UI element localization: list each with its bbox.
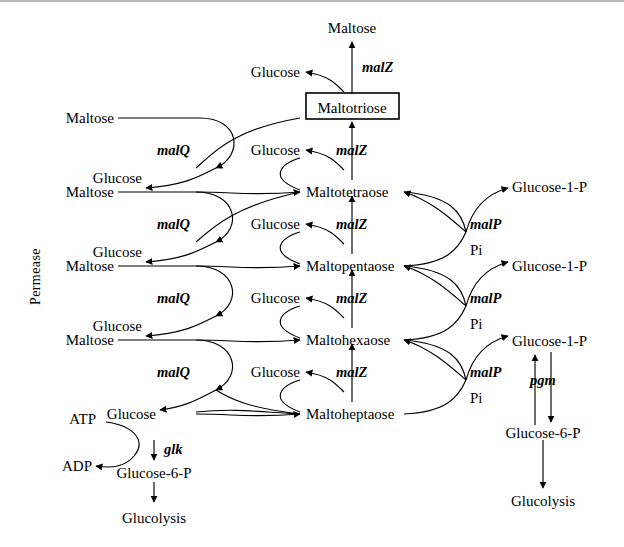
node-glucose-1-p-3: Glucose-1-P — [512, 333, 587, 349]
node-glucolysis-left: Glucolysis — [122, 510, 186, 526]
node-glucose-left-3: Glucose — [93, 318, 142, 334]
enzyme-malz-top: malZ — [362, 59, 394, 75]
enzyme-malp-2: malP — [470, 290, 502, 306]
node-glucose-center-1: Glucose — [251, 142, 300, 158]
enzyme-malz-1: malZ — [336, 142, 368, 158]
node-maltose-entry-1: Maltose — [66, 110, 115, 126]
enzyme-malq-2: malQ — [157, 216, 191, 232]
node-glucose-center-3: Glucose — [251, 290, 300, 306]
arrow-malq-to-maltoheptaose — [196, 414, 300, 416]
node-maltose-entry-4: Maltose — [66, 332, 115, 348]
curve-glucose-center-2 — [280, 232, 300, 264]
node-maltotriose: Maltotriose — [317, 100, 386, 116]
node-glucose-1-p-1: Glucose-1-P — [512, 179, 587, 195]
curve-chain5-to-malp — [404, 266, 466, 306]
node-glucose-center-4: Glucose — [251, 364, 300, 380]
node-maltose-entry-2: Maltose — [66, 184, 115, 200]
arrow-malq-glucose-out-4 — [160, 390, 216, 410]
node-glucose-left-4: Glucose — [107, 406, 156, 422]
enzyme-glk: glk — [163, 441, 183, 457]
enzyme-malp-1: malP — [470, 216, 502, 232]
node-glucose-top: Glucose — [251, 64, 300, 80]
enzyme-pgm: pgm — [528, 372, 556, 388]
node-glucose-left-2: Glucose — [93, 244, 142, 260]
node-maltoheptaose: Maltoheptaose — [306, 406, 395, 422]
node-glucose-6-p-left: Glucose-6-P — [117, 465, 192, 481]
node-glucose-center-2: Glucose — [251, 216, 300, 232]
node-glucose-1-p-2: Glucose-1-P — [512, 258, 587, 274]
node-atp: ATP — [69, 411, 96, 427]
node-glucolysis-right: Glucolysis — [511, 493, 575, 509]
curve-glucose-center-1 — [280, 158, 300, 190]
curve-pi-feed-1 — [404, 232, 466, 266]
curve-pi-feed-3 — [404, 380, 466, 414]
arrow-malq-glucose-out-3 — [146, 316, 216, 336]
node-maltotetraose: Maltotetraose — [306, 184, 389, 200]
arrow-malq-glucose-out-1 — [146, 168, 216, 188]
enzyme-malz-3: malZ — [336, 290, 368, 306]
curve-glucose-center-3 — [280, 306, 300, 338]
enzyme-malp-3: malP — [470, 364, 502, 380]
diagram-canvas: Maltose Glucose malZ Maltotriose Maltote… — [0, 0, 624, 547]
enzyme-malq-4: malQ — [157, 364, 191, 380]
enzyme-malz-4: malZ — [336, 364, 368, 380]
pathway-svg: Maltose Glucose malZ Maltotriose Maltote… — [0, 0, 624, 547]
label-pi-2: Pi — [470, 316, 483, 332]
enzyme-malz-2: malZ — [336, 216, 368, 232]
curve-chain4-to-malp — [404, 192, 466, 232]
node-top-maltose: Maltose — [328, 20, 377, 36]
curve-pi-feed-2 — [404, 306, 466, 340]
node-glucose-6-p-right: Glucose-6-P — [506, 425, 581, 441]
arrow-malz-glucose-top — [306, 72, 344, 92]
enzyme-malq-1: malQ — [157, 142, 191, 158]
enzyme-malq-3: malQ — [157, 290, 191, 306]
node-maltose-entry-3: Maltose — [66, 258, 115, 274]
label-pi-1: Pi — [470, 242, 483, 258]
arrow-malq-to-maltotetraose — [196, 192, 300, 194]
label-pi-3: Pi — [470, 390, 483, 406]
node-maltopentaose: Maltopentaose — [306, 258, 395, 274]
arrow-malq-to-maltohexaose — [196, 340, 300, 342]
arrow-malq-to-maltopentaose — [196, 266, 300, 268]
node-adp: ADP — [62, 458, 92, 474]
arrow-atp-to-adp — [96, 422, 139, 467]
label-permease: Permease — [28, 248, 43, 305]
curve-chain6-to-malp — [404, 340, 466, 380]
node-glucose-left-1: Glucose — [93, 170, 142, 186]
arrow-malq-glucose-out-2 — [146, 242, 216, 262]
curve-glucose-center-4 — [280, 380, 300, 412]
node-maltohexaose: Maltohexaose — [306, 332, 390, 348]
